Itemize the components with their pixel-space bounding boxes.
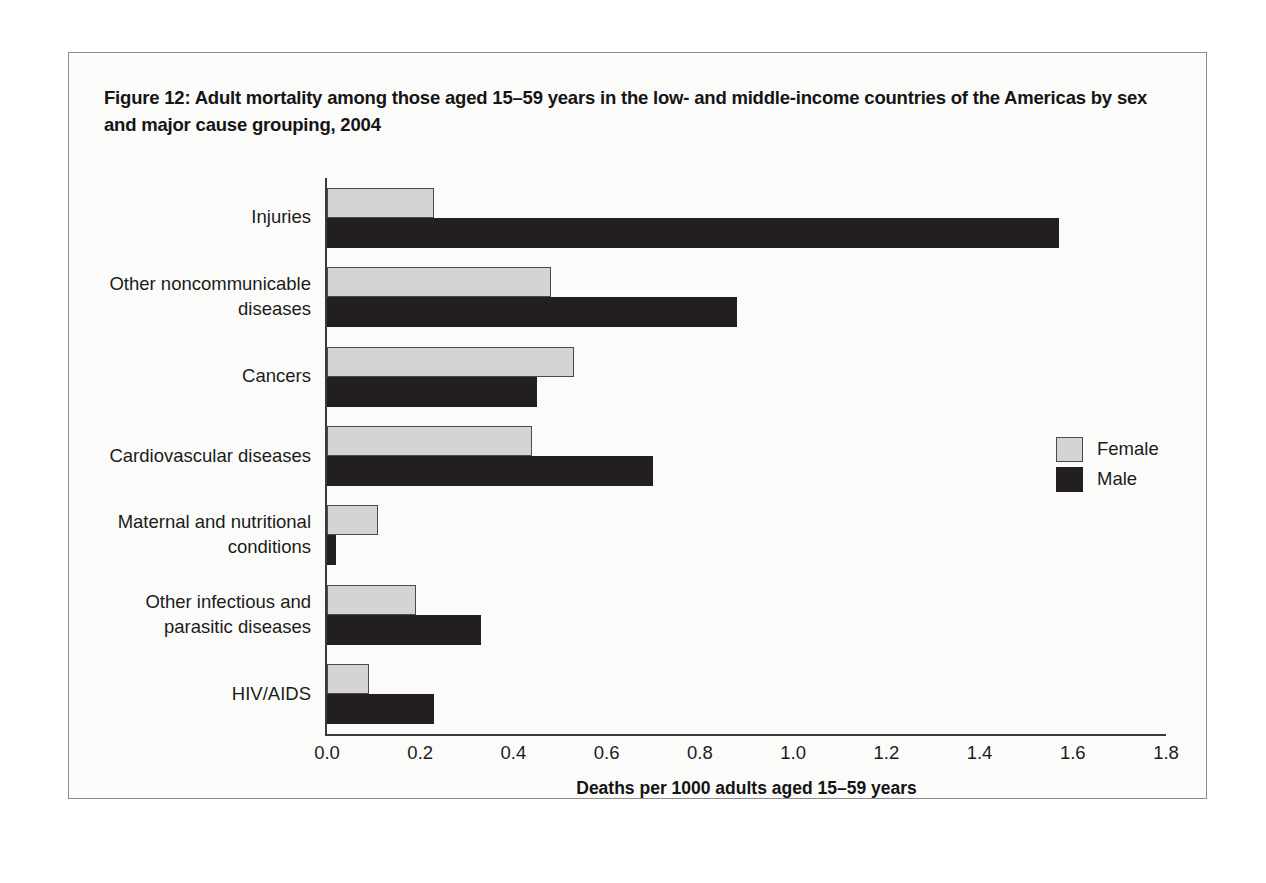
x-tick-label: 1.4: [945, 742, 1015, 764]
x-axis-line: [325, 734, 1166, 736]
category-label-hiv-aids: HIV/AIDS: [11, 681, 311, 706]
x-tick-label: 0.4: [478, 742, 548, 764]
bar-male-maternal-and-nutritional-conditions[interactable]: [327, 535, 336, 565]
bar-female-cardiovascular-diseases[interactable]: [327, 426, 532, 456]
category-label-other-noncommunicable-diseases: Other noncommunicable diseases: [11, 271, 311, 321]
category-label-other-infectious-and-parasitic-diseases: Other infectious and parasitic diseases: [11, 589, 311, 639]
legend-swatch-male-icon: [1056, 467, 1083, 492]
chart-legend: FemaleMale: [1056, 434, 1206, 494]
x-tick-label: 1.6: [1038, 742, 1108, 764]
bar-male-injuries[interactable]: [327, 218, 1059, 248]
legend-swatch-female-icon: [1056, 437, 1083, 462]
x-tick-label: 0.2: [385, 742, 455, 764]
bar-female-cancers[interactable]: [327, 347, 574, 377]
bar-male-cancers[interactable]: [327, 377, 537, 407]
x-tick-label: 0.0: [292, 742, 362, 764]
bar-female-other-noncommunicable-diseases[interactable]: [327, 267, 551, 297]
legend-label: Female: [1097, 438, 1159, 460]
x-tick-label: 0.6: [572, 742, 642, 764]
x-tick-label: 1.8: [1131, 742, 1201, 764]
bar-female-maternal-and-nutritional-conditions[interactable]: [327, 505, 378, 535]
x-tick-label: 0.8: [665, 742, 735, 764]
x-axis-title: Deaths per 1000 adults aged 15–59 years: [327, 778, 1166, 799]
chart-plot-area: InjuriesOther noncommunicable diseasesCa…: [327, 178, 1166, 734]
bar-female-other-infectious-and-parasitic-diseases[interactable]: [327, 585, 416, 615]
legend-item-male[interactable]: Male: [1056, 464, 1206, 494]
x-tick-label: 1.0: [758, 742, 828, 764]
category-label-maternal-and-nutritional-conditions: Maternal and nutritional conditions: [11, 509, 311, 559]
category-label-cardiovascular-diseases: Cardiovascular diseases: [11, 443, 311, 468]
x-tick-label: 1.2: [851, 742, 921, 764]
bar-male-other-noncommunicable-diseases[interactable]: [327, 297, 737, 327]
bar-female-injuries[interactable]: [327, 188, 434, 218]
figure-title: Figure 12: Adult mortality among those a…: [104, 84, 1164, 138]
category-label-cancers: Cancers: [11, 363, 311, 388]
bar-female-hiv-aids[interactable]: [327, 664, 369, 694]
category-label-injuries: Injuries: [11, 204, 311, 229]
bar-male-hiv-aids[interactable]: [327, 694, 434, 724]
legend-item-female[interactable]: Female: [1056, 434, 1206, 464]
bar-male-other-infectious-and-parasitic-diseases[interactable]: [327, 615, 481, 645]
figure-page: Figure 12: Adult mortality among those a…: [0, 0, 1266, 883]
legend-label: Male: [1097, 468, 1137, 490]
bar-male-cardiovascular-diseases[interactable]: [327, 456, 653, 486]
